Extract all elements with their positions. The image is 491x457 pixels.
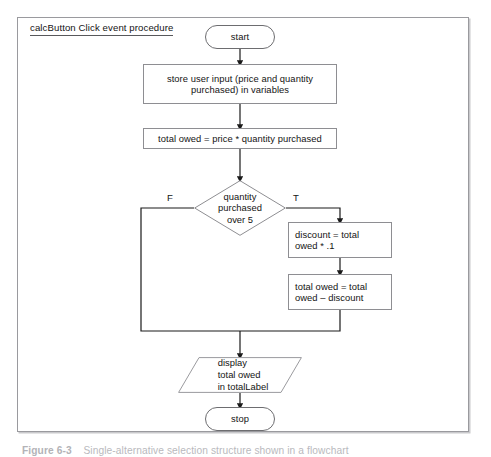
figure-caption-text: Single-alternative selection structure s… (83, 445, 348, 456)
node-discount-label: discount = total owed * .1 (289, 229, 391, 252)
node-discount: discount = total owed * .1 (288, 222, 392, 258)
node-display-total-owed: display total owed in totalLabel (178, 357, 302, 393)
branch-label-true: T (293, 192, 299, 203)
node-stop-label: stop (231, 413, 249, 424)
node-stop: stop (205, 407, 275, 431)
node-total-owed-minus-discount: total owed = total owed – discount (288, 274, 392, 310)
node-total-owed-minus-discount-label: total owed = total owed – discount (289, 281, 391, 304)
node-decision-quantity-over-5: quantity purchased over 5 (194, 180, 286, 236)
figure-caption-number: Figure 6-3 (22, 445, 72, 456)
node-total-owed: total owed = price * quantity purchased (143, 128, 337, 149)
node-start-label: start (231, 31, 249, 42)
decision-diamond-shape (194, 180, 286, 236)
parallelogram-shape (178, 357, 302, 393)
node-store-user-input: store user input (price and quantity pur… (143, 64, 337, 104)
node-store-user-input-label: store user input (price and quantity pur… (167, 73, 313, 96)
branch-label-false: F (167, 192, 173, 203)
procedure-header-label: calcButton Click event procedure (30, 22, 173, 36)
figure-caption: Figure 6-3 Single-alternative selection … (22, 444, 349, 457)
node-total-owed-label: total owed = price * quantity purchased (158, 133, 322, 144)
node-start: start (205, 25, 275, 49)
